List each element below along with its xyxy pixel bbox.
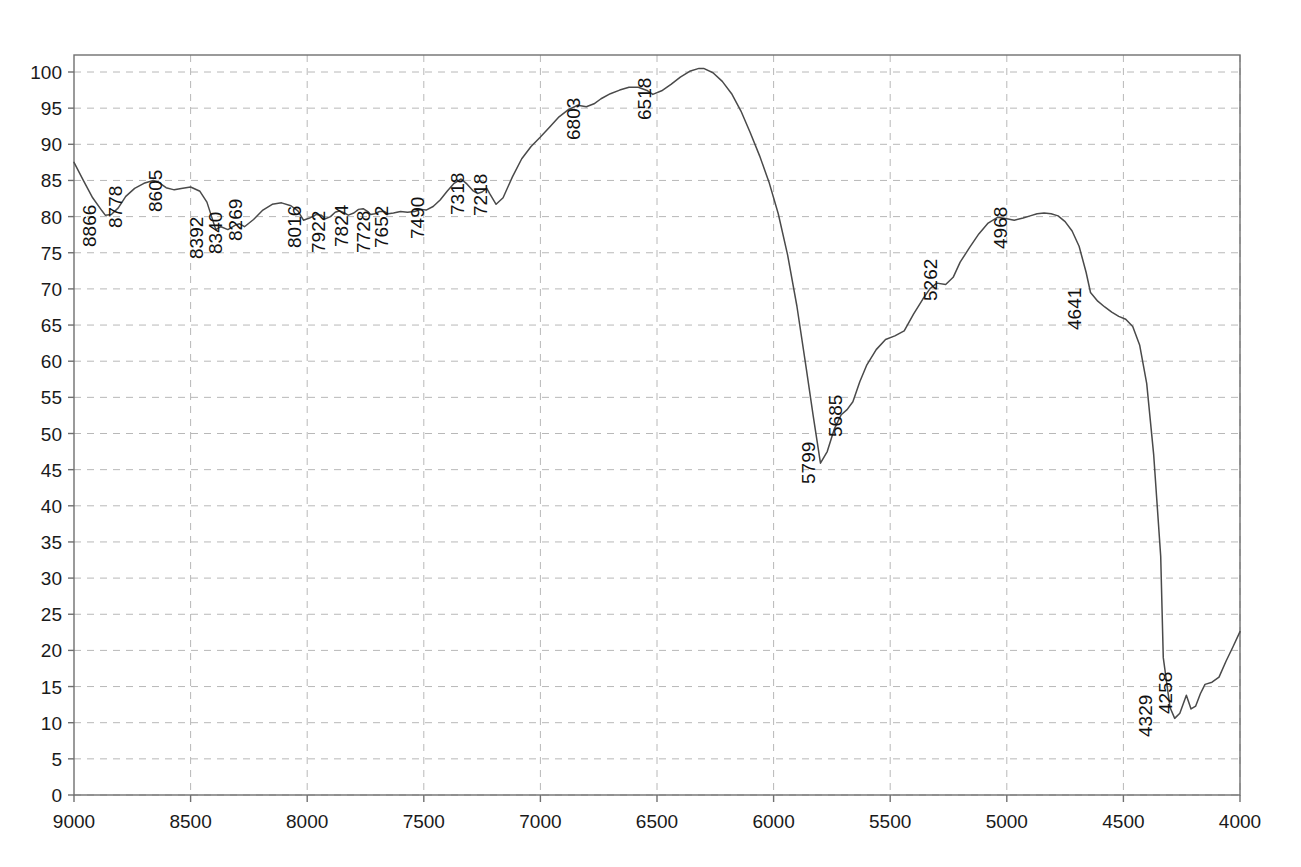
y-axis-tick-label: 5: [51, 749, 62, 770]
peak-label: 5685: [825, 395, 846, 437]
x-axis-tick-label: 5000: [986, 811, 1028, 832]
peak-label: 7218: [470, 174, 491, 216]
peak-label: 4258: [1155, 672, 1176, 714]
y-axis-tick-label: 85: [41, 170, 62, 191]
y-axis-tick-label: 15: [41, 677, 62, 698]
peak-label: 4329: [1135, 695, 1156, 737]
y-axis-tick-label: 50: [41, 424, 62, 445]
spectrum-chart-svg: 0510152025303540455055606570758085909510…: [0, 0, 1301, 867]
y-axis-tick-label: 75: [41, 243, 62, 264]
y-axis-tick-label: 25: [41, 604, 62, 625]
spectrum-chart-page: 0510152025303540455055606570758085909510…: [0, 0, 1301, 867]
x-axis-tick-label: 7000: [519, 811, 561, 832]
x-axis-tick-label: 6000: [752, 811, 794, 832]
peak-label: 7824: [331, 204, 352, 247]
peak-label: 6518: [634, 78, 655, 120]
peak-label: 7490: [407, 197, 428, 239]
peak-label: 8392: [186, 217, 207, 259]
peak-label: 8605: [145, 170, 166, 212]
y-axis-tick-label: 95: [41, 98, 62, 119]
x-axis-tick-label: 5500: [869, 811, 911, 832]
peak-label: 5799: [798, 442, 819, 484]
peak-label: 7318: [447, 173, 468, 215]
peak-label: 4641: [1064, 288, 1085, 330]
y-axis-tick-label: 30: [41, 568, 62, 589]
y-axis-tick-label: 70: [41, 279, 62, 300]
peak-label: 7652: [371, 206, 392, 248]
y-axis-tick-label: 100: [30, 62, 62, 83]
peak-label: 7922: [308, 211, 329, 253]
peak-label: 8016: [284, 206, 305, 248]
y-axis-tick-label: 65: [41, 315, 62, 336]
peak-label: 4968: [990, 207, 1011, 249]
peak-label: 8778: [105, 186, 126, 228]
x-axis-tick-label: 8500: [169, 811, 211, 832]
peak-label: 8866: [79, 205, 100, 247]
x-axis-tick-label: 8000: [286, 811, 328, 832]
y-axis-tick-label: 20: [41, 640, 62, 661]
x-axis-tick-label: 7500: [403, 811, 445, 832]
y-axis-tick-label: 60: [41, 351, 62, 372]
y-axis-tick-label: 90: [41, 134, 62, 155]
y-axis-tick-label: 40: [41, 496, 62, 517]
y-axis-tick-label: 45: [41, 460, 62, 481]
x-axis-tick-label: 4500: [1102, 811, 1144, 832]
y-axis-tick-label: 10: [41, 713, 62, 734]
x-axis-tick-label: 4000: [1219, 811, 1261, 832]
peak-label: 8269: [225, 199, 246, 241]
x-axis-tick-label: 6500: [636, 811, 678, 832]
peak-label: 8340: [205, 212, 226, 254]
y-axis-tick-label: 55: [41, 387, 62, 408]
peak-label: 6803: [563, 98, 584, 140]
y-axis-tick-label: 35: [41, 532, 62, 553]
y-axis-tick-label: 80: [41, 207, 62, 228]
x-axis-tick-label: 9000: [53, 811, 95, 832]
peak-label: 5262: [920, 259, 941, 301]
y-axis-tick-label: 0: [51, 785, 62, 806]
